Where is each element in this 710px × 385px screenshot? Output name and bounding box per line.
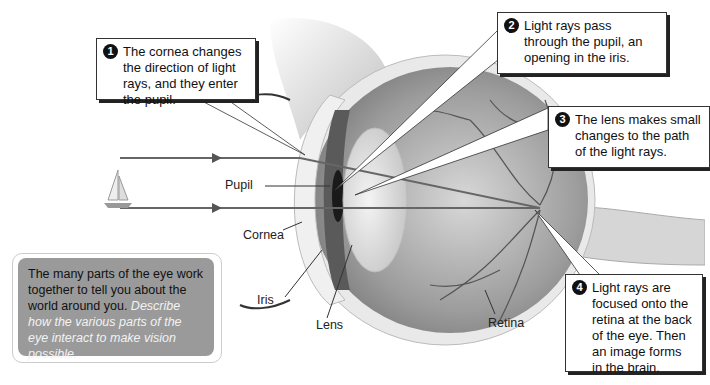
callout-text: The lens makes small changes to the path… — [575, 112, 701, 159]
callout-2: 2 Light rays pass through the pupil, an … — [497, 12, 667, 74]
callout-text: Light rays are focused onto the retina a… — [592, 280, 692, 375]
callout-text: Light rays pass through the pupil, an op… — [524, 18, 643, 65]
lens-shape — [343, 128, 407, 272]
callout-text: The cornea changes the direction of ligh… — [123, 44, 242, 107]
callout-1: 1 The cornea changes the direction of li… — [96, 38, 256, 100]
label-lens: Lens — [316, 318, 343, 332]
arrow-icon — [212, 203, 222, 213]
label-cornea: Cornea — [243, 228, 284, 242]
callout-1-pointer — [200, 100, 305, 155]
label-iris: Iris — [257, 293, 274, 307]
sailboat-icon — [104, 170, 132, 208]
label-retina: Retina — [488, 316, 524, 330]
callout-4: 4 Light rays are focused onto the retina… — [565, 274, 703, 372]
number-badge: 2 — [504, 18, 519, 33]
callout-3: 3 The lens makes small changes to the pa… — [548, 106, 710, 168]
arrow-icon — [212, 153, 222, 163]
number-badge: 1 — [103, 44, 118, 59]
number-badge: 3 — [555, 112, 570, 127]
note-box: The many parts of the eye work together … — [18, 258, 214, 356]
label-pupil: Pupil — [225, 178, 253, 192]
number-badge: 4 — [572, 280, 587, 295]
